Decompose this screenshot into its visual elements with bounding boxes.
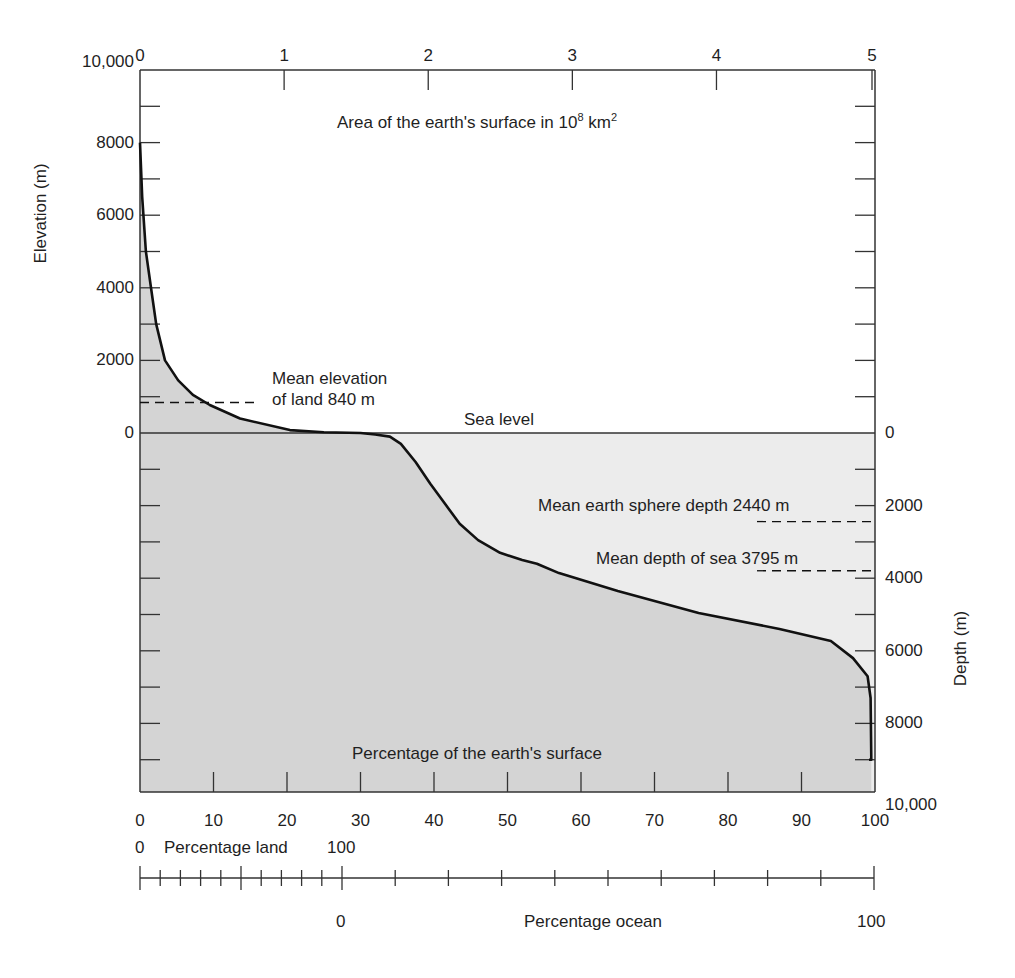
bottom-tick-label: 60 bbox=[551, 812, 611, 829]
land-scale-label: Percentage land bbox=[164, 839, 288, 856]
hypsographic-chart bbox=[0, 0, 1015, 978]
right-tick-label: 0 bbox=[885, 424, 894, 441]
top-tick-label: 0 bbox=[110, 47, 170, 64]
top-axis-unit-exponent: 2 bbox=[611, 111, 617, 123]
ocean-scale-hundred: 100 bbox=[857, 913, 885, 930]
ocean-scale-zero: 0 bbox=[336, 913, 345, 930]
left-tick-label: 0 bbox=[44, 424, 134, 441]
right-tick-label: 8000 bbox=[885, 714, 923, 731]
mean-elevation-label-2: of land 840 m bbox=[272, 391, 375, 408]
land-scale-hundred: 100 bbox=[327, 839, 355, 856]
sea-level-label: Sea level bbox=[464, 411, 534, 428]
ocean-scale-label: Percentage ocean bbox=[524, 913, 662, 930]
mean-sphere-depth-label: Mean earth sphere depth 2440 m bbox=[538, 497, 789, 514]
bottom-tick-label: 30 bbox=[331, 812, 391, 829]
right-tick-label: 4000 bbox=[885, 569, 923, 586]
top-axis-title-text: Area of the earth's surface in 10 bbox=[337, 113, 577, 132]
bottom-tick-label: 90 bbox=[772, 812, 832, 829]
right-tick-label: 10,000 bbox=[885, 796, 937, 813]
top-axis-title: Area of the earth's surface in 108 km2 bbox=[337, 112, 617, 131]
mean-elevation-label-1: Mean elevation bbox=[272, 370, 387, 387]
bottom-tick-label: 20 bbox=[257, 812, 317, 829]
left-tick-label: 2000 bbox=[44, 351, 134, 368]
land-scale-zero: 0 bbox=[135, 839, 144, 856]
left-tick-label: 8000 bbox=[44, 134, 134, 151]
right-tick-label: 2000 bbox=[885, 497, 923, 514]
bottom-tick-label: 0 bbox=[110, 812, 170, 829]
bottom-tick-label: 50 bbox=[478, 812, 538, 829]
bottom-tick-label: 70 bbox=[625, 812, 685, 829]
right-tick-label: 6000 bbox=[885, 642, 923, 659]
right-axis-title: Depth (m) bbox=[952, 599, 969, 699]
bottom-tick-label: 80 bbox=[698, 812, 758, 829]
top-tick-label: 5 bbox=[842, 47, 902, 64]
mean-sea-depth-label: Mean depth of sea 3795 m bbox=[596, 550, 798, 567]
top-tick-label: 2 bbox=[398, 47, 458, 64]
left-tick-label: 4000 bbox=[44, 279, 134, 296]
bottom-tick-label: 40 bbox=[404, 812, 464, 829]
bottom-inner-title: Percentage of the earth's surface bbox=[352, 745, 602, 762]
top-axis-unit: km bbox=[584, 113, 611, 132]
top-tick-label: 4 bbox=[686, 47, 746, 64]
top-tick-label: 1 bbox=[254, 47, 314, 64]
bottom-tick-label: 10 bbox=[184, 812, 244, 829]
top-tick-label: 3 bbox=[542, 47, 602, 64]
bottom-tick-label: 100 bbox=[845, 812, 905, 829]
left-tick-label: 6000 bbox=[44, 206, 134, 223]
